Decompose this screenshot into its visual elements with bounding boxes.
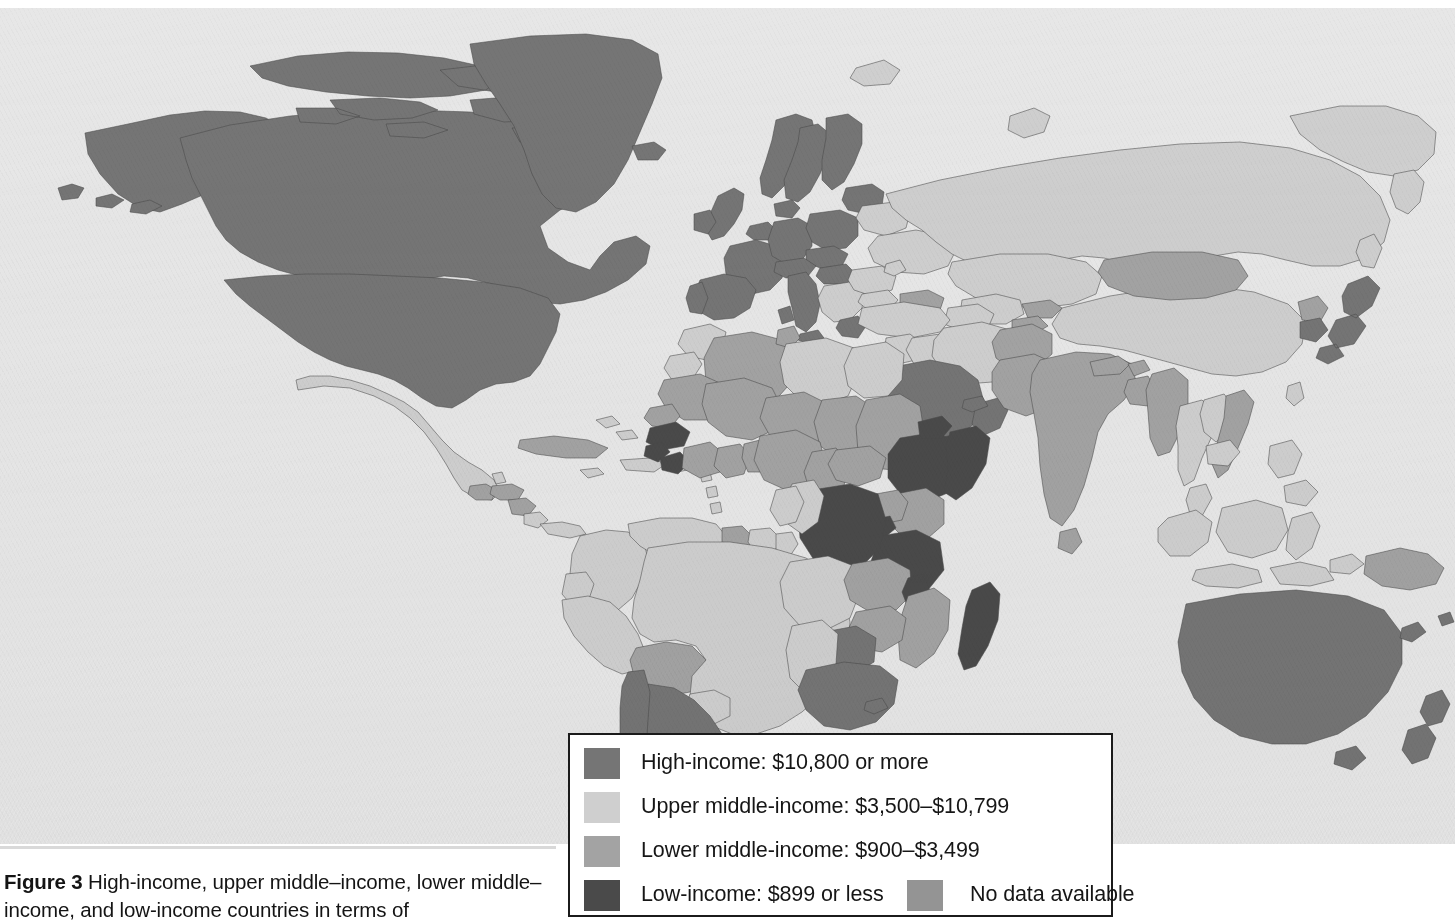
region-fiji — [1438, 612, 1454, 626]
region-turkey — [858, 302, 950, 338]
legend-item-low-income: Low-income: $899 or less — [584, 875, 884, 915]
region-india — [1030, 352, 1136, 526]
legend-label-no-data: No data available — [970, 884, 1134, 906]
region-jamaica — [580, 468, 604, 478]
region-south-africa — [798, 662, 898, 730]
region-novaya-zemlya — [1008, 108, 1050, 138]
region-cuba — [518, 436, 608, 458]
region-germany — [768, 218, 812, 264]
region-south-korea — [1300, 318, 1328, 342]
legend-swatch-no-data — [907, 880, 943, 911]
region-java — [1192, 564, 1262, 588]
region-russia — [886, 142, 1390, 270]
region-india-sri-lanka — [1058, 528, 1082, 554]
region-indonesia-east — [1270, 554, 1364, 586]
region-finland — [822, 114, 862, 190]
region-somalia — [944, 426, 990, 500]
region-philippines — [1268, 440, 1318, 506]
region-central-african-republic — [828, 446, 886, 486]
legend-label-high-income: High-income: $10,800 or more — [641, 752, 929, 774]
world-map-svg — [0, 8, 1455, 844]
region-sumatra — [1158, 510, 1212, 556]
legend-item-high-income: High-income: $10,800 or more — [584, 743, 929, 783]
region-denmark — [774, 200, 800, 218]
region-papua-new-guinea — [1364, 548, 1444, 590]
region-new-caledonia — [1400, 622, 1426, 642]
region-taiwan — [1286, 382, 1304, 406]
region-panama — [540, 522, 586, 538]
region-japan — [1316, 276, 1380, 364]
legend-swatch-upper-middle-income — [584, 792, 620, 823]
region-honduras — [490, 484, 524, 500]
region-tasmania — [1334, 746, 1366, 770]
legend-item-lower-middle-income: Lower middle-income: $900–$3,499 — [584, 831, 980, 871]
legend-swatch-high-income — [584, 748, 620, 779]
region-poland — [806, 210, 858, 250]
figure-caption: Figure 3 High-income, upper middle–incom… — [4, 868, 552, 924]
region-united-states — [224, 274, 560, 408]
legend-item-upper-middle-income: Upper middle-income: $3,500–$10,799 — [584, 787, 1009, 827]
legend-label-upper-middle-income: Upper middle-income: $3,500–$10,799 — [641, 796, 1009, 818]
region-sulawesi — [1286, 512, 1320, 560]
region-svalbard — [850, 60, 900, 86]
region-kamchatka — [1390, 170, 1424, 214]
region-mongolia — [1098, 252, 1248, 300]
region-madagascar — [958, 582, 1000, 670]
region-borneo — [1216, 500, 1288, 558]
legend-swatch-lower-middle-income — [584, 836, 620, 867]
region-bahamas — [596, 416, 638, 440]
region-malaysia-peninsula — [1186, 484, 1212, 516]
legend-swatch-low-income — [584, 880, 620, 911]
region-italy — [788, 272, 820, 332]
region-new-zealand — [1402, 690, 1450, 764]
region-north-korea — [1298, 296, 1328, 322]
region-iceland — [632, 142, 666, 160]
region-australia — [1178, 590, 1402, 744]
figure-number: Figure 3 — [4, 870, 83, 893]
legend-item-no-data: No data available — [907, 875, 1134, 915]
region-lesser-antilles — [700, 472, 722, 514]
world-map-plate — [0, 8, 1455, 844]
legend-label-low-income: Low-income: $899 or less — [641, 884, 884, 906]
caption-divider — [0, 846, 556, 849]
legend-label-lower-middle-income: Lower middle-income: $900–$3,499 — [641, 840, 980, 862]
map-legend: High-income: $10,800 or more Upper middl… — [568, 733, 1113, 917]
